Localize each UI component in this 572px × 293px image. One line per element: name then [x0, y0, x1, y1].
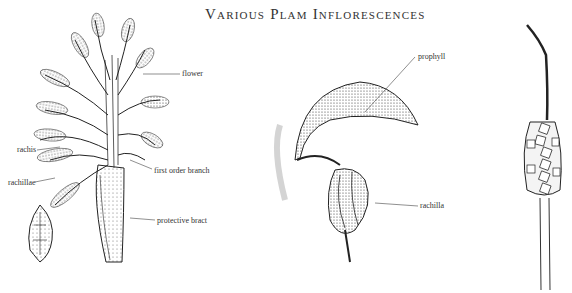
- label-prophyll: prophyll: [418, 52, 445, 61]
- branched-inflorescence-drawing: [29, 12, 169, 262]
- prophyll-inflorescence-drawing: [277, 82, 418, 262]
- label-first-order-branch: first order branch: [154, 166, 210, 175]
- label-rachis: rachis: [17, 145, 36, 154]
- label-flower: flower: [182, 69, 203, 78]
- label-rachilla: rachilla: [420, 201, 444, 210]
- illustration-canvas: [0, 0, 572, 293]
- spike-inflorescence-drawing: [524, 25, 561, 290]
- leader-lines-fig2: [365, 57, 418, 206]
- label-protective-bract: protective bract: [157, 216, 207, 225]
- label-rachillae: rachillae: [8, 178, 36, 187]
